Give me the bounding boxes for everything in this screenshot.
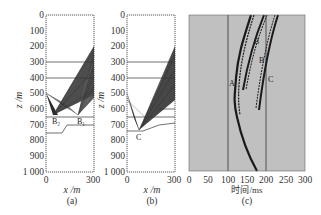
label-a-c: A — [229, 79, 235, 88]
ytick: 1 000 — [104, 167, 126, 177]
x-axis-label-b: x /m — [143, 184, 161, 195]
ytick: 300 — [30, 57, 45, 67]
xtick: 250 — [279, 175, 294, 185]
label-b-c-2: B — [259, 56, 264, 65]
ytick: 100 — [111, 26, 126, 36]
ytick: 900 — [30, 151, 45, 161]
x-ticks-c: 0 50 100 150 200 250 300 — [187, 175, 313, 185]
label-c-b: C — [136, 133, 141, 142]
ytick: 800 — [111, 135, 126, 145]
ytick: 500 — [30, 88, 45, 98]
panel-b: 0 100 200 300 400 500 600 700 800 900 1 … — [95, 10, 181, 207]
ytick: 200 — [30, 41, 45, 51]
ytick: 400 — [111, 73, 126, 83]
xtick: 200 — [259, 175, 274, 185]
ytick: 600 — [30, 104, 45, 114]
y-ticks-b: 0 100 200 300 400 500 600 700 800 900 1 … — [104, 10, 126, 177]
ytick: 1 000 — [23, 167, 45, 177]
xtick-a-300: 300 — [86, 175, 101, 185]
xtick: 0 — [187, 175, 192, 185]
ytick: 700 — [30, 120, 45, 130]
ray-fan-b1 — [46, 46, 94, 115]
xtick: 150 — [240, 175, 255, 185]
ytick: 200 — [111, 41, 126, 51]
ytick: 100 — [30, 26, 45, 36]
ytick: 300 — [111, 57, 126, 67]
xtick-a-0: 0 — [44, 175, 49, 185]
panel-a: 0 100 200 300 400 500 600 700 800 900 1 … — [13, 10, 100, 207]
xtick-b-300: 300 — [167, 175, 182, 185]
ray-fan-c — [127, 46, 175, 130]
xtick-b-0: 0 — [125, 175, 130, 185]
ytick: 600 — [111, 104, 126, 114]
ytick: 0 — [120, 10, 125, 20]
figure-canvas: 0 100 200 300 400 500 600 700 800 900 1 … — [0, 0, 321, 215]
y-axis-label-b: z /m — [95, 92, 106, 109]
label-b1: B₁ — [77, 117, 85, 126]
y-axis-label-a: z /m — [13, 92, 24, 109]
x-axis-label-a: x /m — [63, 184, 81, 195]
x-axis-label-c: 时间/ms — [231, 184, 263, 195]
xtick: 100 — [221, 175, 236, 185]
panel-c: 0 50 100 150 200 250 300 时间/ms (c) A B B… — [187, 15, 313, 207]
label-c-c: C — [268, 75, 273, 84]
xtick: 300 — [298, 175, 313, 185]
ytick: 0 — [39, 10, 44, 20]
y-ticks-a: 0 100 200 300 400 500 600 700 800 900 1 … — [23, 10, 45, 177]
caption-b: (b) — [146, 196, 157, 207]
label-b-c-1: B — [254, 37, 259, 46]
label-b2: B₂ — [52, 117, 60, 126]
caption-a: (a) — [67, 196, 78, 207]
ytick: 700 — [111, 120, 126, 130]
xtick: 50 — [203, 175, 213, 185]
ytick: 900 — [111, 151, 126, 161]
ytick: 800 — [30, 135, 45, 145]
ytick: 500 — [111, 88, 126, 98]
caption-c: (c) — [242, 196, 253, 207]
ytick: 400 — [30, 73, 45, 83]
